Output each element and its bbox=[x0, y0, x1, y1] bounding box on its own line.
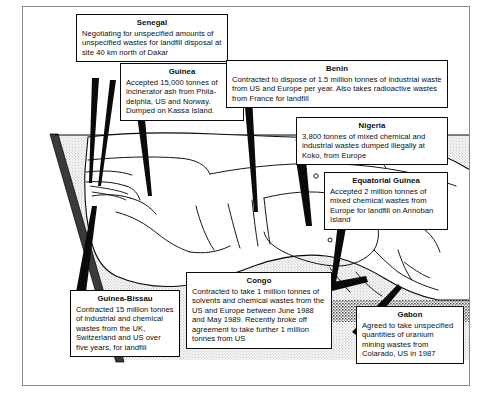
callout-nigeria[interactable]: Nigeria 3,800 tonnes of mixed chemical a… bbox=[296, 117, 448, 165]
callout-senegal-text: Negotiating for unspecified amounts of u… bbox=[82, 29, 222, 58]
callout-equatorial-guinea[interactable]: Equatorial Guinea Accepted 2 million ton… bbox=[324, 172, 448, 230]
callout-nigeria-title: Nigeria bbox=[302, 121, 442, 131]
callout-guinea-text: Accepted 15,000 tonnes of incinerator as… bbox=[126, 78, 238, 116]
callout-guinea-bissau[interactable]: Guinea-Bissau Contracted 15 million tonn… bbox=[70, 290, 180, 357]
callout-guinea-bissau-title: Guinea-Bissau bbox=[76, 294, 174, 304]
callout-nigeria-text: 3,800 tonnes of mixed chemical and indus… bbox=[302, 132, 442, 161]
callout-equatorial-guinea-text: Accepted 2 million tonnes of mixed chemi… bbox=[330, 187, 442, 225]
callout-senegal-title: Senegal bbox=[82, 18, 222, 28]
callout-senegal[interactable]: Senegal Negotiating for unspecified amou… bbox=[76, 14, 228, 62]
waste-shipment-map-figure: Senegal Negotiating for unspecified amou… bbox=[0, 0, 492, 394]
callout-guinea-bissau-text: Contracted 15 million tonnes of industri… bbox=[76, 305, 174, 353]
callout-congo[interactable]: Congo Contracted to take 1 million tonne… bbox=[186, 272, 332, 349]
callout-gabon-title: Gabon bbox=[362, 310, 458, 320]
callout-congo-title: Congo bbox=[192, 276, 326, 286]
callout-benin-title: Benin bbox=[232, 64, 442, 74]
callout-benin[interactable]: Benin Contracted to dispose of 1.5 milli… bbox=[226, 60, 448, 108]
callout-guinea-title: Guinea bbox=[126, 67, 238, 77]
callout-equatorial-guinea-title: Equatorial Guinea bbox=[330, 176, 442, 186]
callout-gabon[interactable]: Gabon Agreed to take unspecified quantit… bbox=[356, 306, 464, 364]
callout-benin-text: Contracted to dispose of 1.5 million ton… bbox=[232, 75, 442, 104]
callout-congo-text: Contracted to take 1 million tonnes of s… bbox=[192, 287, 326, 345]
callout-gabon-text: Agreed to take unspecified quantities of… bbox=[362, 321, 458, 359]
